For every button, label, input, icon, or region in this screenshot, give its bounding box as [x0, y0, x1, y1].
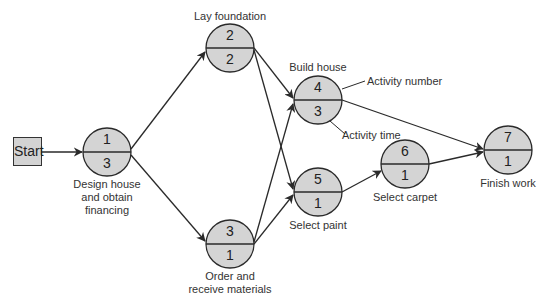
edge-6-7	[429, 152, 483, 164]
network-diagram	[0, 0, 542, 301]
node-7-time: 1	[493, 153, 523, 169]
node-7-label: Finish work	[470, 177, 542, 190]
start-box: Start	[13, 137, 42, 166]
node-2-label: Lay foundation	[190, 10, 270, 23]
edge-1-2	[131, 52, 205, 149]
node-3-number: 3	[215, 223, 245, 239]
edge-5-6	[342, 171, 381, 192]
activity-number-leader	[342, 81, 365, 89]
activity-number-annotation: Activity number	[367, 75, 442, 88]
node-6-time: 1	[390, 167, 420, 183]
node-4-label: Build house	[283, 61, 353, 74]
node-2-number: 2	[215, 27, 245, 43]
node-3-label: Order and receive materials	[175, 270, 285, 296]
node-2-time: 2	[215, 51, 245, 67]
node-1-number: 1	[92, 131, 122, 147]
node-6-number: 6	[390, 143, 420, 159]
node-1-label: Design house and obtain financing	[67, 178, 147, 217]
node-5-time: 1	[303, 195, 333, 211]
node-1-time: 3	[92, 155, 122, 171]
node-5-number: 5	[303, 171, 333, 187]
node-5-label: Select paint	[283, 219, 353, 232]
node-3-time: 1	[215, 247, 245, 263]
node-6-label: Select carpet	[365, 191, 445, 204]
node-4-time: 3	[303, 103, 333, 119]
node-7-number: 7	[493, 129, 523, 145]
activity-time-annotation: Activity time	[342, 129, 401, 142]
node-4-number: 4	[303, 79, 333, 95]
